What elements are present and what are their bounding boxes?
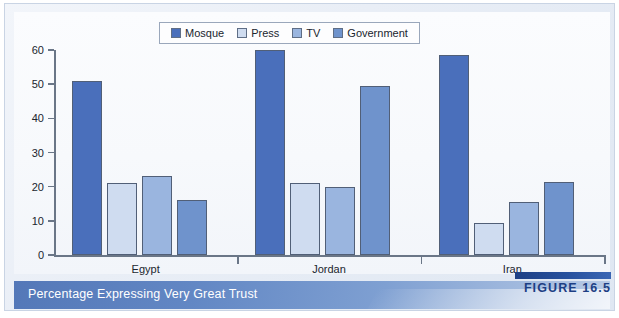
figure-frame: MosquePressTVGovernment 0102030405060 Eg…	[4, 3, 615, 311]
y-tick-label: 60	[14, 45, 44, 56]
legend-label: Mosque	[185, 28, 224, 39]
bar-iran-press	[474, 223, 504, 255]
legend-label: Government	[347, 28, 408, 39]
bar-jordan-government	[360, 86, 390, 255]
figure-tag: FIGURE 16.5	[507, 272, 611, 295]
bar-iran-tv	[509, 202, 539, 255]
figure-tag-label: FIGURE 16.5	[507, 282, 611, 295]
legend-item-mosque: Mosque	[171, 28, 224, 39]
bar-group-egypt	[54, 50, 237, 255]
bar-jordan-mosque	[255, 50, 285, 255]
legend-item-tv: TV	[292, 28, 320, 39]
bar-jordan-press	[290, 183, 320, 255]
x-group-divider	[237, 255, 239, 264]
legend-label: Press	[251, 28, 279, 39]
legend-item-government: Government	[333, 28, 408, 39]
x-group-label-jordan: Jordan	[237, 264, 420, 275]
legend-swatch-icon	[237, 28, 247, 38]
bar-egypt-government	[177, 200, 207, 255]
bar-egypt-mosque	[72, 81, 102, 255]
legend-swatch-icon	[171, 28, 181, 38]
bar-jordan-tv	[325, 187, 355, 255]
y-tick-label: 20	[14, 182, 44, 193]
y-tick-label: 30	[14, 148, 44, 159]
figure-tag-bar	[515, 272, 611, 279]
y-tick-label: 0	[14, 250, 44, 261]
chart-legend: MosquePressTVGovernment	[159, 22, 420, 44]
chart-plot-panel: MosquePressTVGovernment 0102030405060 Eg…	[14, 12, 610, 274]
x-group-label-egypt: Egypt	[54, 264, 237, 275]
bar-egypt-tv	[142, 176, 172, 255]
bar-iran-government	[544, 182, 574, 255]
legend-swatch-icon	[292, 28, 302, 38]
bar-iran-mosque	[439, 55, 469, 255]
bar-group-iran	[421, 50, 604, 255]
bar-egypt-press	[107, 183, 137, 255]
legend-swatch-icon	[333, 28, 343, 38]
x-axis-line	[54, 255, 604, 257]
figure-caption-text: Percentage Expressing Very Great Trust	[28, 287, 257, 301]
legend-label: TV	[306, 28, 320, 39]
x-group-divider	[421, 255, 423, 264]
chart-bars	[54, 50, 604, 255]
y-tick-label: 40	[14, 113, 44, 124]
y-tick-label: 50	[14, 79, 44, 90]
figure-screenshot: MosquePressTVGovernment 0102030405060 Eg…	[0, 0, 619, 318]
x-axis-end-tick	[604, 255, 606, 264]
bar-group-jordan	[237, 50, 420, 255]
legend-item-press: Press	[237, 28, 279, 39]
y-tick-label: 10	[14, 216, 44, 227]
